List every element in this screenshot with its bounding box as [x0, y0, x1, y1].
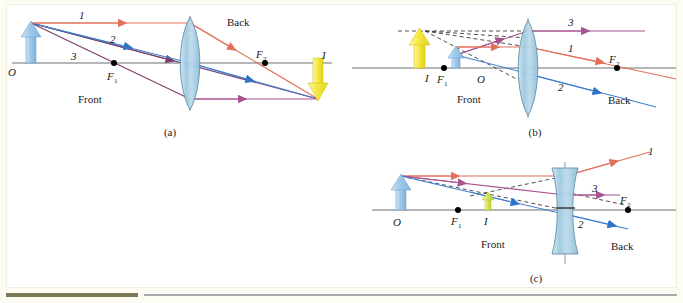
label-front-c: Front [481, 238, 505, 250]
image-arrow-b [409, 28, 430, 68]
label-ray3-b: 3 [567, 16, 574, 28]
virtual-ray-ext2-b [425, 31, 528, 38]
label-ray2-a: 2 [110, 33, 116, 45]
panel-a: O I F 1 F 2 Front Back 1 2 3 (a) [8, 9, 332, 139]
label-f2-a: F 2 [255, 48, 267, 63]
label-ray1-a: 1 [79, 9, 85, 21]
label-f1-c: F 1 [450, 215, 462, 230]
bottom-rule-accent [6, 293, 138, 297]
caption-b: (b) [529, 126, 542, 139]
label-front-a: Front [78, 93, 102, 105]
label-image-a: I [321, 49, 327, 61]
figure-canvas: O I F 1 F 2 Front Back 1 2 3 (a) [0, 0, 683, 303]
label-image-c: I [483, 215, 489, 227]
svg-text:1: 1 [114, 77, 118, 85]
figure-page: O I F 1 F 2 Front Back 1 2 3 (a) [0, 0, 683, 303]
svg-text:1: 1 [444, 80, 448, 88]
svg-text:F: F [106, 70, 114, 82]
svg-text:F: F [255, 48, 263, 60]
panel-c: O F 1 I F 2 Front Back 1 3 2 (c) [372, 145, 676, 285]
label-image-b: I [424, 72, 430, 84]
bottom-rule-line [144, 294, 677, 296]
label-ray3-c: 3 [591, 182, 598, 194]
svg-text:1: 1 [458, 222, 462, 230]
svg-text:F: F [436, 73, 444, 85]
label-ray1-b: 1 [568, 42, 574, 54]
label-f1-b: F 1 [436, 73, 448, 88]
label-ray2-c: 2 [578, 218, 584, 230]
label-f2-c: F 2 [619, 194, 631, 209]
svg-text:F: F [608, 53, 616, 65]
svg-text:2: 2 [627, 201, 631, 209]
svg-text:2: 2 [263, 55, 267, 63]
diverging-lens-c [552, 162, 578, 264]
label-object-b: O [477, 73, 485, 85]
label-ray2-b: 2 [558, 81, 564, 93]
label-front-b: Front [457, 93, 481, 105]
caption-c: (c) [530, 272, 543, 285]
converging-lens-a [180, 16, 200, 111]
focal-point-f1-c [455, 207, 461, 213]
label-ray3-a: 3 [70, 50, 77, 62]
label-back-c: Back [611, 240, 634, 252]
panel-b: I F 1 O F 2 Front Back 3 1 2 (b) [352, 16, 676, 139]
object-arrow-b [448, 46, 464, 68]
ray1-refr-arrow-b [528, 47, 600, 62]
svg-text:F: F [450, 215, 458, 227]
object-arrow-c [391, 174, 411, 210]
label-object-a: O [8, 66, 16, 78]
bottom-rule [6, 293, 677, 297]
object-arrow-a [21, 21, 41, 63]
label-object-c: O [393, 216, 401, 228]
label-f1-a: F 1 [106, 70, 118, 85]
label-ray1-c: 1 [648, 145, 654, 157]
ray2-arrow-c [470, 192, 515, 203]
label-back-a: Back [227, 16, 250, 28]
focal-point-f1-a [111, 60, 117, 66]
svg-text:F: F [619, 194, 627, 206]
svg-text:2: 2 [616, 60, 620, 68]
focal-point-f1-b [441, 65, 447, 71]
label-back-b: Back [608, 94, 631, 106]
caption-a: (a) [164, 126, 177, 139]
